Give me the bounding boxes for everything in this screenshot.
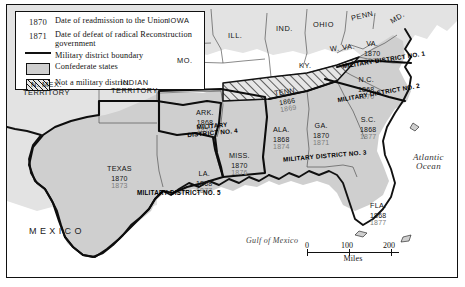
not-a-district-hatch-swatch	[26, 79, 50, 91]
scale-bar-caption: Miles	[305, 254, 401, 263]
legend-key-hatch-swatch	[21, 78, 55, 91]
legend-key-boundary-line	[21, 51, 55, 54]
scale-tick-mark-100	[349, 249, 350, 256]
scale-bar: 0 100 200 Miles	[305, 241, 401, 263]
scale-tick-mark-200	[391, 249, 392, 256]
legend-row-not-district: Not a military district	[21, 78, 199, 91]
legend-label-confederate: Confederate states	[55, 62, 118, 71]
legend-row-defeat: 1871 Date of defeat of radical Reconstru…	[21, 30, 199, 49]
scale-bar-line	[307, 252, 399, 253]
scale-tick-100: 100	[341, 241, 353, 250]
legend-row-confederate: Confederate states	[21, 62, 199, 75]
scale-tick-200: 200	[383, 241, 395, 250]
legend-label-defeat: Date of defeat of radical Reconstruction…	[55, 30, 199, 49]
scale-tick-labels: 0 100 200	[305, 241, 401, 252]
legend-key-defeat-year: 1871	[21, 30, 55, 41]
legend-readmission-year: 1870	[29, 17, 47, 27]
legend-row-readmission: 1870 Date of readmission to the Union	[21, 16, 199, 27]
legend-defeat-year: 1871	[29, 31, 47, 41]
map-frame: 1870 Date of readmission to the Union 18…	[6, 4, 458, 278]
boundary-line-swatch	[25, 52, 51, 54]
legend-label-readmission: Date of readmission to the Union	[55, 16, 169, 25]
legend-key-confederate-swatch	[21, 62, 55, 75]
legend-label-district-boundary: Military district boundary	[55, 51, 143, 60]
scale-tick-mark-0	[307, 249, 308, 256]
legend-row-district-boundary: Military district boundary	[21, 51, 199, 60]
legend-label-not-district: Not a military district	[55, 78, 129, 87]
map-legend: 1870 Date of readmission to the Union 18…	[15, 11, 205, 90]
confederate-fill-swatch	[26, 63, 50, 75]
reconstruction-military-districts-map: 1870 Date of readmission to the Union 18…	[0, 0, 465, 287]
legend-key-readmission-year: 1870	[21, 16, 55, 27]
